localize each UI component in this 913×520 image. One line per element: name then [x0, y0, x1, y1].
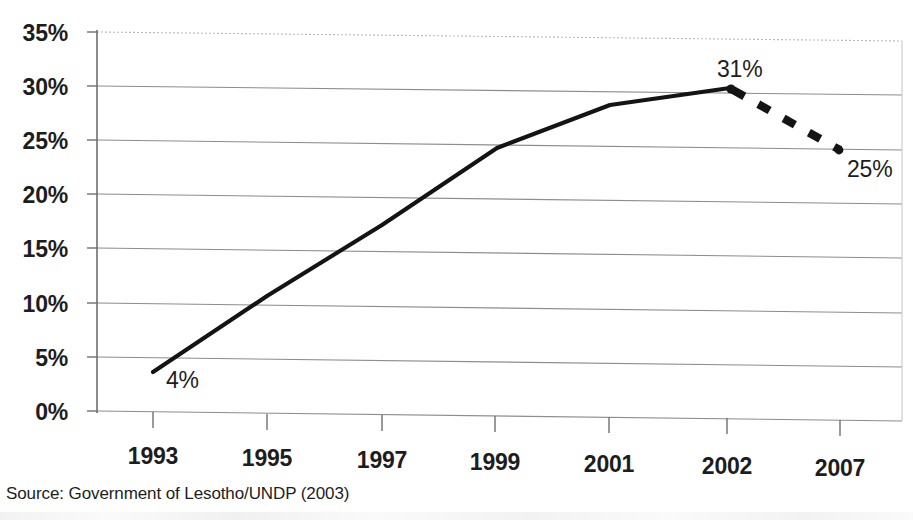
chart-background [0, 0, 913, 520]
x-axis-label-1995: 1995 [212, 445, 322, 472]
chart-figure: 35% 30% 25% 20% 15% 10% 5% 0% 1993 1995 … [0, 0, 913, 520]
y-axis-label-10: 10% [0, 291, 68, 318]
y-axis-label-5: 5% [0, 345, 68, 372]
y-axis-label-20: 20% [0, 182, 68, 209]
data-label-peak: 31% [717, 56, 762, 83]
y-axis-label-25: 25% [0, 128, 68, 155]
y-axis-label-30: 30% [0, 74, 68, 101]
data-point-2007 [835, 146, 844, 155]
data-label-start: 4% [166, 367, 199, 394]
y-axis-label-0: 0% [0, 399, 68, 426]
data-point-2002 [726, 84, 735, 93]
x-axis-label-1997: 1997 [327, 447, 437, 474]
x-axis-label-1999: 1999 [440, 449, 550, 476]
x-axis-label-2001: 2001 [554, 451, 664, 478]
x-axis-label-2007: 2007 [785, 455, 895, 482]
x-axis-label-1993: 1993 [98, 443, 208, 470]
data-label-end: 25% [847, 156, 892, 183]
y-axis-label-35: 35% [0, 20, 68, 47]
y-axis-label-15: 15% [0, 236, 68, 263]
chart-canvas [0, 0, 913, 520]
source-note: Source: Government of Lesotho/UNDP (2003… [6, 484, 349, 504]
x-axis-label-2002: 2002 [672, 453, 782, 480]
